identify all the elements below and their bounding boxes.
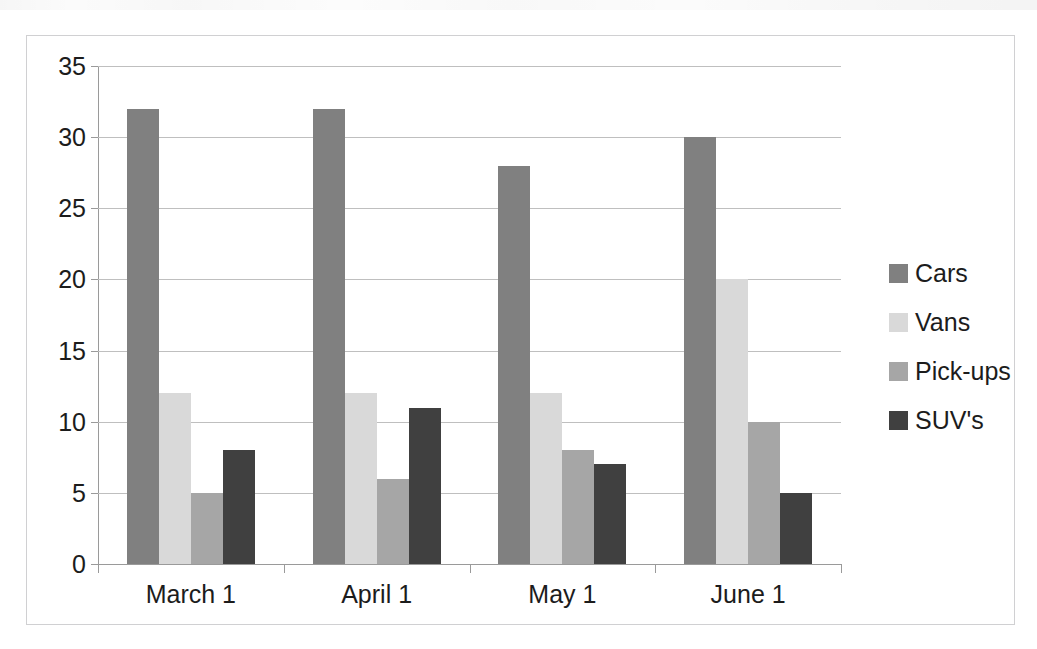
y-axis-tick-label: 5	[72, 480, 86, 505]
y-axis-tick-label: 25	[58, 196, 86, 221]
plot-area: 05101520253035 March 1April 1May 1June 1	[98, 66, 841, 564]
x-tick	[655, 564, 656, 573]
y-tick-10	[91, 422, 98, 423]
x-tick	[841, 564, 842, 573]
y-axis-tick-label: 15	[58, 338, 86, 363]
y-tick-15	[91, 351, 98, 352]
legend-item-cars: Cars	[889, 249, 1009, 298]
bar	[313, 109, 345, 564]
legend-swatch-icon	[889, 362, 908, 381]
bar	[716, 279, 748, 564]
bar	[159, 393, 191, 564]
chart-legend: CarsVansPick-upsSUV's	[889, 249, 1009, 445]
gridline-30	[98, 137, 841, 138]
y-tick-5	[91, 493, 98, 494]
bar	[684, 137, 716, 564]
x-axis-tick-label: March 1	[146, 582, 236, 607]
y-axis-line	[98, 66, 99, 564]
x-axis-tick-label: June 1	[711, 582, 786, 607]
y-tick-25	[91, 208, 98, 209]
legend-label: SUV's	[915, 408, 984, 433]
x-axis-tick-label: May 1	[528, 582, 596, 607]
y-tick-35	[91, 66, 98, 67]
bar	[498, 166, 530, 564]
y-axis-tick-label: 0	[72, 552, 86, 577]
y-axis-tick-label: 30	[58, 125, 86, 150]
legend-swatch-icon	[889, 411, 908, 430]
y-axis-tick-label: 35	[58, 54, 86, 79]
y-tick-30	[91, 137, 98, 138]
x-axis-tick-label: April 1	[341, 582, 412, 607]
legend-item-suv-s: SUV's	[889, 396, 1009, 445]
legend-swatch-icon	[889, 264, 908, 283]
bar	[223, 450, 255, 564]
bar	[530, 393, 562, 564]
legend-item-vans: Vans	[889, 298, 1009, 347]
legend-label: Cars	[915, 261, 968, 286]
bar	[594, 464, 626, 564]
bar	[748, 422, 780, 564]
bar	[191, 493, 223, 564]
gridline-25	[98, 208, 841, 209]
x-tick	[98, 564, 99, 573]
legend-label: Pick-ups	[915, 359, 1011, 384]
bar	[127, 109, 159, 564]
chart-frame: 05101520253035 March 1April 1May 1June 1…	[26, 35, 1015, 625]
x-tick	[284, 564, 285, 573]
y-axis-tick-label: 20	[58, 267, 86, 292]
y-tick-20	[91, 279, 98, 280]
bar	[562, 450, 594, 564]
bar	[377, 479, 409, 564]
x-tick	[470, 564, 471, 573]
legend-item-pick-ups: Pick-ups	[889, 347, 1009, 396]
bar	[345, 393, 377, 564]
y-axis-tick-label: 10	[58, 409, 86, 434]
gridline-35	[98, 66, 841, 67]
legend-swatch-icon	[889, 313, 908, 332]
y-tick-0	[91, 564, 98, 565]
scan-edge-artifact	[0, 0, 1037, 10]
legend-label: Vans	[915, 310, 970, 335]
bar	[780, 493, 812, 564]
bar	[409, 408, 441, 565]
